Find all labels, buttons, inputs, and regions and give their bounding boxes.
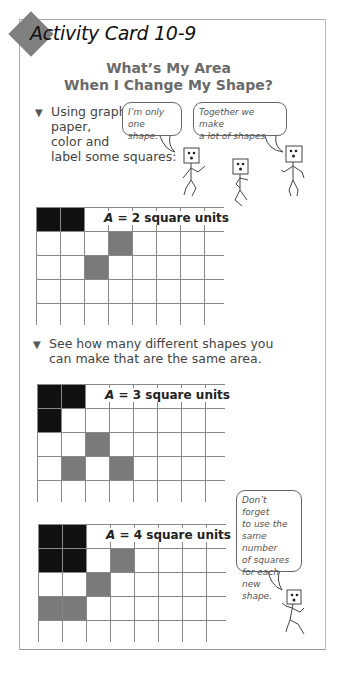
area-label: A = 3 square units [101, 388, 234, 402]
graph-paper [36, 207, 226, 327]
bubble-line: shape. [242, 590, 296, 602]
bubble-line: to use the [242, 518, 296, 530]
bubble-line: of squares [242, 554, 296, 566]
area-grid-1: A = 2 square units [36, 207, 226, 327]
bullet-line: can make that are the same area. [49, 351, 273, 366]
instruction-bullet-2: ▼ See how many different shapes you can … [49, 336, 273, 366]
bubble-line: same number [242, 530, 296, 554]
area-grid-3: A = 4 square units [38, 524, 228, 644]
area-label: A = 4 square units [102, 528, 235, 542]
graph-paper [38, 524, 228, 644]
bullet-line: See how many different shapes you [49, 336, 273, 351]
area-grid-2: A = 3 square units [37, 384, 227, 504]
area-label: A = 2 square units [100, 211, 233, 225]
bubble-line: Don’t forget [242, 494, 296, 518]
graph-paper [37, 384, 227, 504]
triangle-bullet-icon: ▼ [33, 337, 41, 352]
bubble-line: for each new [242, 566, 296, 590]
speech-bubble-3: Don’t forget to use the same number of s… [236, 490, 302, 572]
